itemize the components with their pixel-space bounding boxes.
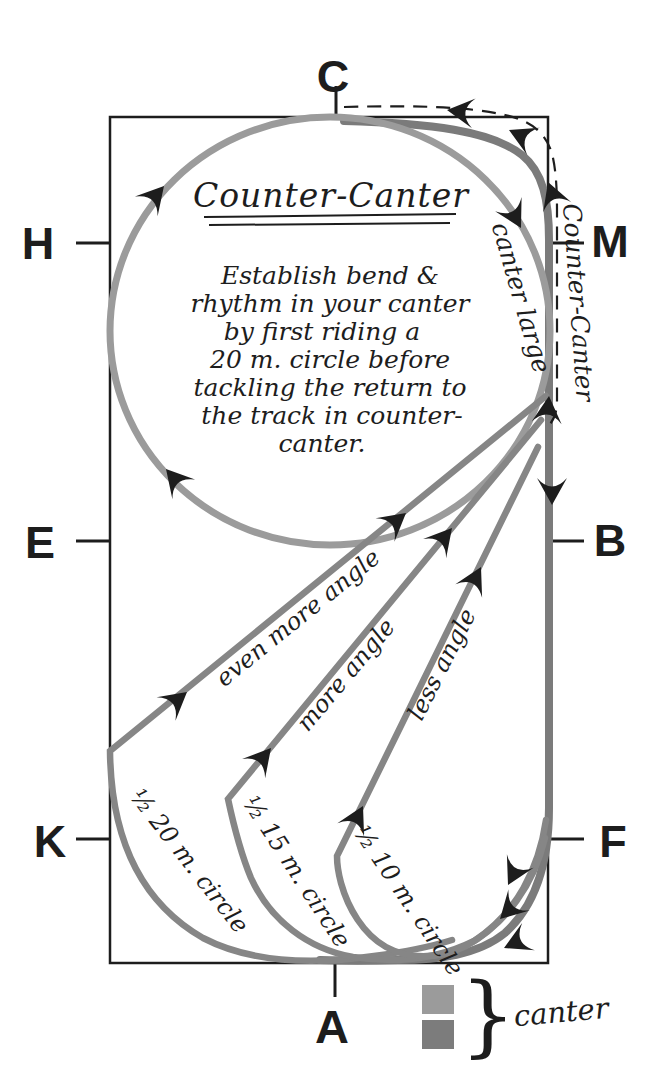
note-line: by first riding a	[224, 317, 420, 346]
letter-c: C	[317, 51, 350, 102]
dashed-arrow-top	[445, 95, 475, 128]
note-line: tackling the return to	[193, 373, 466, 402]
letter-e: E	[25, 517, 55, 568]
letter-h: H	[22, 218, 55, 269]
note-line: the track in counter-	[201, 401, 462, 430]
corner-arrow-bottom	[498, 923, 535, 962]
label-more-angle: more angle	[291, 613, 401, 736]
legend-swatch-dark	[422, 1020, 454, 1049]
letter-k: K	[34, 816, 67, 867]
legend-label: canter	[512, 991, 612, 1033]
legend-swatch-light	[422, 985, 454, 1014]
diagram-title: Counter-Canter	[193, 176, 470, 215]
counter-canter-diagram: C H M E B K F A Counter-Canter Establish…	[0, 0, 657, 1078]
title-underline	[204, 214, 456, 225]
letter-a: A	[315, 1000, 349, 1053]
legend: } canter	[422, 964, 612, 1067]
diagonal-10m-arrow-high	[455, 560, 494, 598]
note-line: 20 m. circle before	[209, 345, 450, 374]
letter-m: M	[591, 216, 629, 267]
letter-b: B	[594, 515, 627, 566]
note-text: Establish bend & rhythm in your canter b…	[191, 261, 472, 458]
title-underline-bottom	[209, 223, 450, 225]
note-line: canter.	[279, 429, 366, 458]
letter-f: F	[599, 816, 627, 867]
legend-brace: }	[460, 964, 516, 1067]
label-less-angle: less angle	[402, 604, 482, 725]
note-line: rhythm in your canter	[191, 289, 472, 318]
note-line: Establish bend &	[220, 261, 439, 290]
label-half-20m-circle: ½ 20 m. circle	[124, 784, 254, 939]
